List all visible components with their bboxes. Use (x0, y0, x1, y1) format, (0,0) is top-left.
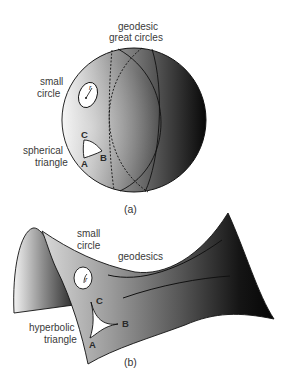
geometry-figure: r C B A geodesic great circles small cir… (0, 0, 288, 388)
geodesic-label-2: great circles (109, 32, 163, 43)
sphere-diagram: r C B A geodesic great circles small cir… (23, 21, 206, 215)
caption-b: (b) (124, 356, 137, 368)
vertex-a-label-a: A (81, 158, 88, 169)
spherical-triangle-label-2: triangle (35, 157, 68, 168)
small-circle-label-b-2: circle (77, 240, 101, 251)
vertex-a-label-b: A (89, 339, 96, 350)
hyperbolic-triangle-label-1: hyperbolic (29, 322, 75, 333)
vertex-b-label-a: B (100, 152, 107, 163)
vertex-c-label-a: C (81, 129, 88, 140)
geodesics-label: geodesics (118, 251, 163, 262)
caption-a: (a) (124, 203, 137, 215)
spherical-triangle-label-1: spherical (23, 145, 63, 156)
hyperbolic-triangle-label-2: triangle (44, 334, 77, 345)
vertex-c-label-b: C (96, 295, 103, 306)
saddle-diagram: r C B A small circle geodesics hyperboli… (14, 213, 274, 368)
small-circle-label-a-1: small (40, 76, 63, 87)
geodesic-label-1: geodesic (118, 21, 158, 32)
vertex-b-label-b: B (122, 318, 129, 329)
small-circle-label-a-2: circle (37, 88, 61, 99)
small-circle-label-b-1: small (77, 228, 100, 239)
small-circle-b: r (74, 267, 92, 289)
